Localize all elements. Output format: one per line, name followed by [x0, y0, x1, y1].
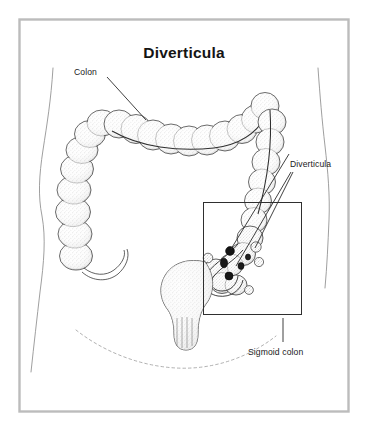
diverticulum-bulge-3 [245, 286, 254, 295]
figure-background [0, 0, 368, 430]
diverticulum-4 [238, 263, 244, 270]
figure-title: Diverticula [143, 44, 225, 61]
diverticulum-bulge-4 [203, 253, 213, 263]
sigmoid-colon-label: Sigmoid colon [248, 347, 303, 357]
diverticulum-2 [220, 258, 227, 268]
colon-label: Colon [74, 67, 97, 77]
diverticula-label: Diverticula [290, 159, 331, 169]
diverticulum-3 [225, 272, 233, 280]
diverticulum-5 [245, 254, 250, 260]
diverticula-figure: Diverticula [0, 0, 368, 430]
diverticulum-bulge-2 [254, 257, 263, 266]
diverticula-illustration: Diverticula [0, 0, 368, 430]
diverticulum-1 [226, 247, 235, 256]
